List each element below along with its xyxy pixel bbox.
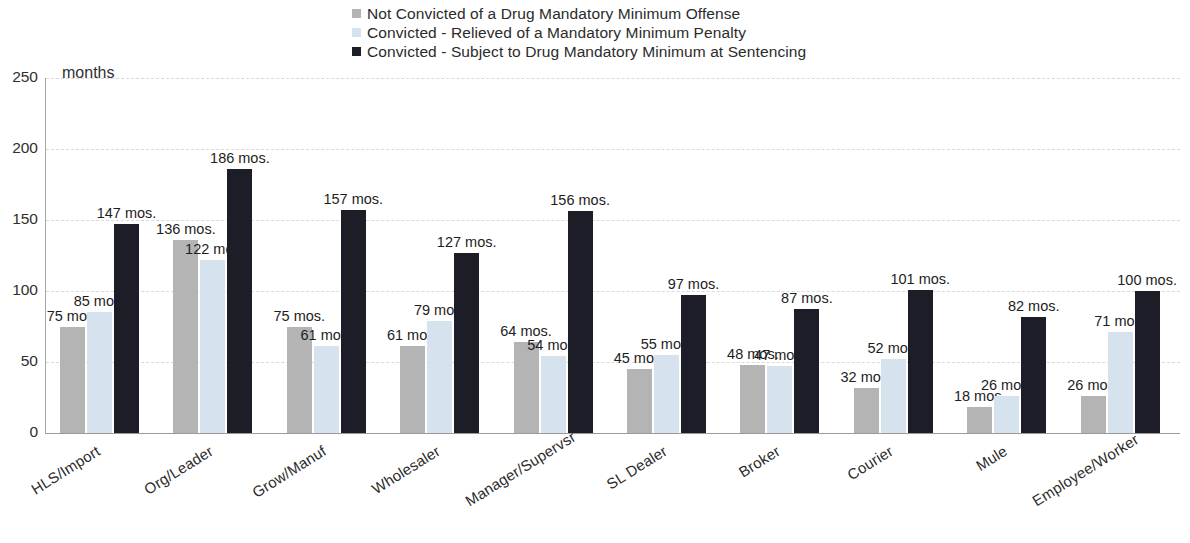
bar-group: 64 mos.54 mos.156 mos. [514,78,593,433]
bar-group: 75 mos.61 mos.157 mos. [287,78,366,433]
bar-chart: Not Convicted of a Drug Mandatory Minimu… [0,0,1190,543]
bar[interactable]: 18 mos. [967,407,992,433]
bar[interactable]: 54 mos. [541,356,566,433]
bar[interactable]: 26 mos. [1081,396,1106,433]
bar-groups: 75 mos.85 mos.147 mos.136 mos.122 mos186… [46,78,1180,433]
bar[interactable]: 87 mos. [794,309,819,433]
bar[interactable]: 147 mos. [114,224,139,433]
x-axis-category-label: Mule [916,442,1010,509]
bar-value-label: 101 mos. [890,272,950,287]
bar-group: 48 mos.47 mos.87 mos. [740,78,819,433]
y-axis-tick-label: 50 [2,352,38,370]
bar-value-label: 87 mos. [781,291,833,306]
legend-label-subject: Convicted - Subject to Drug Mandatory Mi… [367,43,806,61]
bar-value-label: 75 mos. [274,309,326,324]
chart-legend: Not Convicted of a Drug Mandatory Minimu… [352,4,992,61]
x-axis-category-label: SL Dealer [576,442,670,509]
bar-value-label: 136 mos. [156,222,216,237]
bar[interactable]: 32 mos. [854,388,879,433]
bar-value-label: 157 mos. [323,192,383,207]
legend-item-subject: Convicted - Subject to Drug Mandatory Mi… [352,42,992,61]
bar-group: 32 mos.52 mos.101 mos. [854,78,933,433]
bar-value-label: 127 mos. [437,235,497,250]
bar[interactable]: 75 mos. [60,327,85,434]
y-axis-tick-label: 100 [2,281,38,299]
x-axis-category-label: Employee/Worker [1029,442,1123,509]
bar-group: 45 mos.55 mos.97 mos. [627,78,706,433]
bar[interactable]: 45 mos. [627,369,652,433]
bar-group: 136 mos.122 mos186 mos. [173,78,252,433]
bar-value-label: 156 mos. [550,193,610,208]
bar-value-label: 100 mos. [1117,273,1177,288]
bar-value-label: 186 mos. [210,151,270,166]
plot-area: 050100150200250 75 mos.85 mos.147 mos.13… [46,78,1180,433]
bar[interactable]: 48 mos. [740,365,765,433]
y-axis-tick-label: 250 [2,68,38,86]
x-axis-category-label: HLS/Import [9,442,103,509]
y-axis-tick-label: 200 [2,139,38,157]
legend-label-relieved: Convicted - Relieved of a Mandatory Mini… [367,24,746,42]
bar[interactable]: 79 mos. [427,321,452,433]
bar[interactable]: 127 mos. [454,253,479,433]
x-axis-category-label: Manager/Supervsr [462,442,556,509]
bar[interactable]: 157 mos. [341,210,366,433]
bar[interactable]: 186 mos. [227,169,252,433]
legend-swatch-not-convicted [352,9,361,18]
legend-item-relieved: Convicted - Relieved of a Mandatory Mini… [352,23,992,42]
bar[interactable]: 101 mos. [908,290,933,433]
bar-value-label: 97 mos. [668,277,720,292]
legend-swatch-subject [352,47,361,56]
legend-label-not-convicted: Not Convicted of a Drug Mandatory Minimu… [367,5,740,23]
bar[interactable]: 47 mos. [767,366,792,433]
x-axis-category-labels: HLS/ImportOrg/LeaderGrow/ManufWholesaler… [46,434,1180,543]
legend-swatch-relieved [352,28,361,37]
bar[interactable]: 61 mos. [314,346,339,433]
bar[interactable]: 82 mos. [1021,317,1046,433]
bar[interactable]: 52 mos. [881,359,906,433]
bar[interactable]: 100 mos. [1135,291,1160,433]
bar-group: 61 mos.79 mos.127 mos. [400,78,479,433]
y-axis-tick-label: 0 [2,423,38,441]
bar-value-label: 147 mos. [97,206,157,221]
bar-group: 26 mos.71 mos.100 mos. [1081,78,1160,433]
x-axis-category-label: Org/Leader [122,442,216,509]
bar-group: 75 mos.85 mos.147 mos. [60,78,139,433]
legend-item-not-convicted: Not Convicted of a Drug Mandatory Minimu… [352,4,992,23]
bar[interactable]: 61 mos. [400,346,425,433]
bar[interactable]: 85 mos. [87,312,112,433]
bar[interactable]: 26 mos. [994,396,1019,433]
bar[interactable]: 55 mos. [654,355,679,433]
x-axis-category-label: Grow/Manuf [235,442,329,509]
bar[interactable]: 122 mos [200,260,225,433]
x-axis-category-label: Broker [689,442,783,509]
y-axis-tick-label: 150 [2,210,38,228]
x-axis-category-label: Courier [802,442,896,509]
bar[interactable]: 136 mos. [173,240,198,433]
bar[interactable]: 71 mos. [1108,332,1133,433]
bar[interactable]: 64 mos. [514,342,539,433]
bar-group: 18 mos.26 mos.82 mos. [967,78,1046,433]
bar[interactable]: 156 mos. [568,211,593,433]
x-axis-category-label: Wholesaler [349,442,443,509]
bar-value-label: 82 mos. [1008,299,1060,314]
bar[interactable]: 97 mos. [681,295,706,433]
